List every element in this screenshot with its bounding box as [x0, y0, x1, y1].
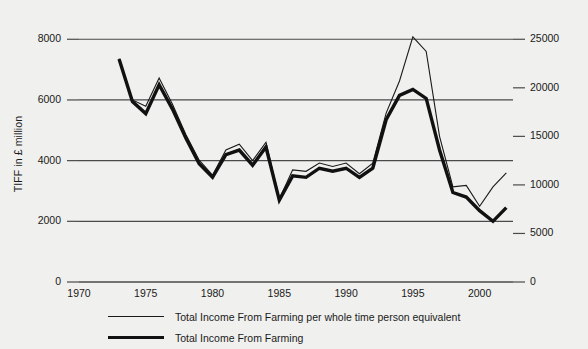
legend-swatch-thick-line-icon	[108, 336, 164, 339]
y-axis-left-tick-label: 0	[15, 275, 61, 287]
y-axis-left-tick-label: 6000	[15, 93, 61, 105]
y-axis-right-ticks	[513, 39, 525, 282]
legend-label: Total Income From Farming	[175, 332, 303, 344]
x-axis-tick-label: 1995	[393, 287, 433, 299]
x-axis-tick-label: 1975	[126, 287, 166, 299]
y-axis-right-tick-label: 0	[530, 275, 576, 287]
gridlines	[79, 39, 513, 282]
y-axis-right-tick-label: 10000	[530, 178, 576, 190]
legend-swatch-thin-line-icon	[108, 316, 164, 317]
chart-legend: Total Income From Farming per whole time…	[108, 306, 528, 348]
y-axis-right-tick-label: 15000	[530, 129, 576, 141]
x-axis-tick-label: 1990	[326, 287, 366, 299]
series-polyline	[119, 59, 506, 221]
legend-item-tiff-total: Total Income From Farming	[108, 327, 528, 348]
x-axis-tick-label: 1980	[193, 287, 233, 299]
legend-label: Total Income From Farming per whole time…	[175, 311, 460, 323]
y-axis-right-tick-label: 5000	[530, 226, 576, 238]
y-axis-left-tick-label: 2000	[15, 214, 61, 226]
x-axis-tick-label: 2000	[460, 287, 500, 299]
y-axis-right-tick-label: 25000	[530, 32, 576, 44]
series-line-tiff-total	[119, 59, 506, 221]
y-axis-left-tick-label: 4000	[15, 154, 61, 166]
legend-item-tiff-per-head: Total Income From Farming per whole time…	[108, 306, 528, 327]
y-axis-left-ticks	[67, 39, 79, 282]
chart-container: TIFF in £ million £ per head whole time …	[0, 0, 588, 349]
x-axis-tick-label: 1985	[259, 287, 299, 299]
y-axis-left-tick-label: 8000	[15, 32, 61, 44]
x-axis-tick-label: 1970	[59, 287, 99, 299]
y-axis-right-tick-label: 20000	[530, 81, 576, 93]
